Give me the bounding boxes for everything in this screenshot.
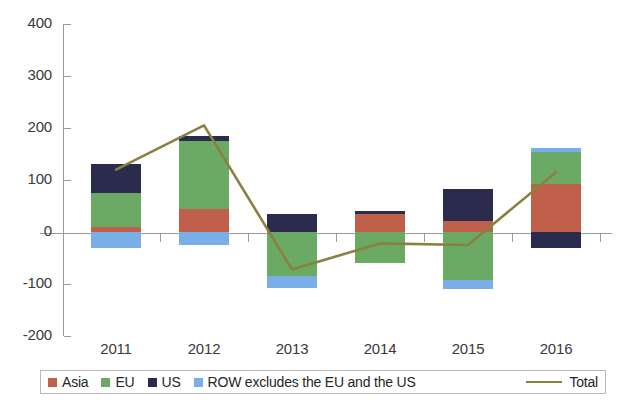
bar-group [91,0,141,400]
legend-item-label: ROW excludes the EU and the US [208,374,416,390]
y-axis-tick-label: 300 [6,66,52,83]
chart-container: 4003002001000-100-200 201120122013201420… [0,0,622,400]
legend-item: US [148,374,181,390]
x-axis-tick-mark [424,234,425,242]
y-axis-tick-label: 200 [6,118,52,135]
y-axis-tick-mark [64,180,71,181]
legend-color-swatch [101,378,110,387]
bar-segment [443,232,493,280]
bar-group [267,0,317,400]
y-axis-tick-label: 0 [6,222,52,239]
chart-legend: AsiaEUUSROW excludes the EU and the US T… [40,370,606,394]
legend-label-total: Total [569,374,598,390]
bar-segment [267,276,317,287]
legend-item-total: Total [526,374,598,390]
legend-item: Asia [48,374,88,390]
bar-segment [179,209,229,232]
x-axis-tick-mark [600,234,601,242]
y-axis-tick-label: 100 [6,170,52,187]
legend-swatch-items: AsiaEUUSROW excludes the EU and the US [48,374,429,390]
bar-segment [91,164,141,193]
y-axis-tick-mark [64,128,71,129]
y-axis-tick-label: -100 [6,274,52,291]
bar-segment [531,152,581,184]
bar-segment [179,136,229,141]
y-axis-tick-mark [64,24,71,25]
legend-item-label: EU [115,374,134,390]
bar-group [179,0,229,400]
x-axis-tick-mark [512,234,513,242]
bar-segment [179,232,229,245]
bar-segment [443,221,493,232]
legend-color-swatch [194,378,203,387]
bar-segment [443,189,493,220]
bar-segment [355,211,405,214]
legend-item-label: US [162,374,181,390]
bar-segment [531,184,581,232]
y-axis-tick-mark [64,336,71,337]
bar-segment [355,232,405,263]
legend-item-label: Asia [62,374,88,390]
y-axis-tick-label: 400 [6,14,52,31]
bar-segment [531,232,581,248]
y-axis-tick-mark [64,284,71,285]
bar-group [531,0,581,400]
y-axis-tick-mark [64,76,71,77]
bar-group [355,0,405,400]
bar-segment [179,141,229,209]
bar-segment [91,232,141,248]
bar-segment [443,280,493,289]
legend-color-swatch [48,378,57,387]
total-line-swatch [526,381,562,383]
legend-item: EU [101,374,134,390]
bar-group [443,0,493,400]
bar-segment [355,214,405,232]
x-axis-tick-mark [336,234,337,242]
y-axis-tick-label: -200 [6,326,52,343]
bar-segment [91,193,141,227]
bar-segment [267,232,317,276]
legend-color-swatch [148,378,157,387]
x-axis-tick-mark [160,234,161,242]
bar-segment [531,148,581,152]
bar-segment [267,214,317,232]
legend-item: ROW excludes the EU and the US [194,374,416,390]
x-axis-tick-mark [248,234,249,242]
